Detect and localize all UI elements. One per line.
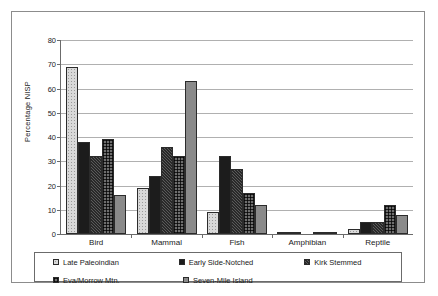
- x-axis-label-mammal: Mammal: [131, 238, 201, 247]
- bar-cluster: [66, 40, 126, 234]
- bar-mammal-eva-morrow-mtn[interactable]: [173, 156, 185, 234]
- bar-mammal-seven-mile-island[interactable]: [185, 81, 197, 234]
- y-axis-tick-label: 50: [48, 108, 56, 117]
- legend-item-early-side-notched[interactable]: Early Side-Notched: [179, 258, 305, 267]
- bar-group-bird: Bird: [61, 40, 131, 234]
- bar-reptile-kirk-stemmed[interactable]: [372, 222, 384, 234]
- bar-cluster: [137, 40, 197, 234]
- bar-cluster: [277, 40, 337, 234]
- bar-group-mammal: Mammal: [131, 40, 201, 234]
- bar-group-fish: Fish: [202, 40, 272, 234]
- bar-bird-early-side-notched[interactable]: [78, 142, 90, 234]
- bar-fish-eva-morrow-mtn[interactable]: [243, 193, 255, 234]
- legend-row: Eva/Morrow Mtn.Seven-Mile Island: [35, 274, 401, 286]
- bar-mammal-kirk-stemmed[interactable]: [161, 147, 173, 234]
- bar-cluster: [348, 40, 408, 234]
- bars-layer: BirdMammalFishAmphibianReptile: [61, 40, 413, 234]
- y-axis-tick-label: 30: [48, 157, 56, 166]
- y-axis-tick-label: 80: [48, 36, 56, 45]
- bar-reptile-late-paleoindian[interactable]: [348, 229, 360, 234]
- x-axis-tick-mark: [343, 234, 344, 238]
- bar-bird-late-paleoindian[interactable]: [66, 67, 78, 234]
- bar-fish-seven-mile-island[interactable]: [255, 205, 267, 234]
- legend: Late PaleoindianEarly Side-NotchedKirk S…: [34, 252, 402, 282]
- bar-group-amphibian: Amphibian: [272, 40, 342, 234]
- legend-label: Early Side-Notched: [189, 258, 254, 267]
- plot-area: BirdMammalFishAmphibianReptile: [60, 40, 413, 235]
- legend-row: Late PaleoindianEarly Side-NotchedKirk S…: [35, 256, 401, 268]
- y-axis-tick-label: 60: [48, 84, 56, 93]
- y-axis-title: Percentage NISP: [23, 52, 32, 172]
- bar-bird-eva-morrow-mtn[interactable]: [102, 139, 114, 234]
- x-axis-tick-mark: [131, 234, 132, 238]
- legend-item-seven-mile-island[interactable]: Seven-Mile Island: [183, 276, 313, 285]
- legend-label: Late Paleoindian: [63, 258, 119, 267]
- bar-amphibian-seven-mile-island[interactable]: [325, 232, 337, 234]
- x-axis-label-reptile: Reptile: [343, 238, 413, 247]
- bar-fish-late-paleoindian[interactable]: [207, 212, 219, 234]
- bar-amphibian-late-paleoindian[interactable]: [277, 232, 289, 234]
- x-axis-label-amphibian: Amphibian: [272, 238, 342, 247]
- legend-item-eva-morrow-mtn[interactable]: Eva/Morrow Mtn.: [53, 276, 183, 285]
- legend-swatch-icon: [179, 259, 185, 265]
- legend-label: Seven-Mile Island: [193, 276, 253, 285]
- bar-fish-early-side-notched[interactable]: [219, 156, 231, 234]
- legend-swatch-icon: [53, 277, 59, 283]
- bar-group-reptile: Reptile: [343, 40, 413, 234]
- x-axis-label-fish: Fish: [202, 238, 272, 247]
- y-axis-tick-label: 20: [48, 181, 56, 190]
- plot-area-wrapper: Percentage NISP 80706050403020100 BirdMa…: [12, 12, 426, 244]
- bar-bird-kirk-stemmed[interactable]: [90, 156, 102, 234]
- legend-swatch-icon: [304, 259, 310, 265]
- legend-swatch-icon: [53, 259, 59, 265]
- chart-frame: Percentage NISP 80706050403020100 BirdMa…: [11, 11, 425, 283]
- x-axis-label-bird: Bird: [61, 238, 131, 247]
- x-axis-tick-mark: [272, 234, 273, 238]
- legend-label: Eva/Morrow Mtn.: [63, 276, 120, 285]
- bar-reptile-early-side-notched[interactable]: [360, 222, 372, 234]
- y-axis-ticks: 80706050403020100: [32, 12, 60, 244]
- bar-reptile-seven-mile-island[interactable]: [396, 215, 408, 234]
- legend-item-late-paleoindian[interactable]: Late Paleoindian: [53, 258, 179, 267]
- y-axis-tick-label: 70: [48, 60, 56, 69]
- legend-item-kirk-stemmed[interactable]: Kirk Stemmed: [304, 258, 401, 267]
- y-axis-tick-label: 10: [48, 205, 56, 214]
- legend-swatch-icon: [183, 277, 189, 283]
- bar-mammal-late-paleoindian[interactable]: [137, 188, 149, 234]
- bar-fish-kirk-stemmed[interactable]: [231, 169, 243, 234]
- bar-reptile-eva-morrow-mtn[interactable]: [384, 205, 396, 234]
- bar-bird-seven-mile-island[interactable]: [114, 195, 126, 234]
- y-axis-tick-label: 40: [48, 133, 56, 142]
- bar-amphibian-early-side-notched[interactable]: [289, 232, 301, 234]
- legend-label: Kirk Stemmed: [314, 258, 361, 267]
- bar-cluster: [207, 40, 267, 234]
- bar-mammal-early-side-notched[interactable]: [149, 176, 161, 234]
- x-axis-tick-mark: [202, 234, 203, 238]
- y-axis-tick-label: 0: [52, 230, 56, 239]
- bar-amphibian-eva-morrow-mtn[interactable]: [313, 232, 325, 234]
